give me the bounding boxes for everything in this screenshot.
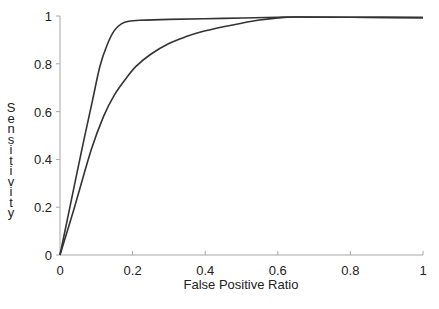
y-tick-label: 0.8 bbox=[34, 57, 52, 72]
y-ticks: 00.20.40.60.81 bbox=[34, 9, 60, 263]
x-axis-title: False Positive Ratio bbox=[184, 277, 299, 292]
x-tick-label: 0.8 bbox=[341, 263, 359, 278]
y-tick-label: 0.2 bbox=[34, 200, 52, 215]
y-axis-title: Sensitivity bbox=[7, 100, 16, 220]
curve-upper bbox=[60, 17, 423, 255]
x-tick-label: 0.4 bbox=[196, 263, 214, 278]
plot-area bbox=[60, 17, 423, 255]
y-tick-label: 1 bbox=[45, 9, 52, 24]
x-tick-label: 1 bbox=[419, 263, 426, 278]
x-tick-label: 0 bbox=[56, 263, 63, 278]
y-axis-title-letter: y bbox=[8, 205, 15, 220]
roc-chart: 00.20.40.60.81 00.20.40.60.81 False Posi… bbox=[0, 0, 439, 309]
x-tick-label: 0.2 bbox=[124, 263, 142, 278]
y-tick-label: 0 bbox=[45, 248, 52, 263]
y-axis: 00.20.40.60.81 bbox=[34, 9, 60, 263]
curve-lower bbox=[60, 17, 423, 255]
x-axis: 00.20.40.60.81 bbox=[56, 251, 426, 278]
y-tick-label: 0.6 bbox=[34, 105, 52, 120]
x-tick-label: 0.6 bbox=[269, 263, 287, 278]
y-tick-label: 0.4 bbox=[34, 152, 52, 167]
